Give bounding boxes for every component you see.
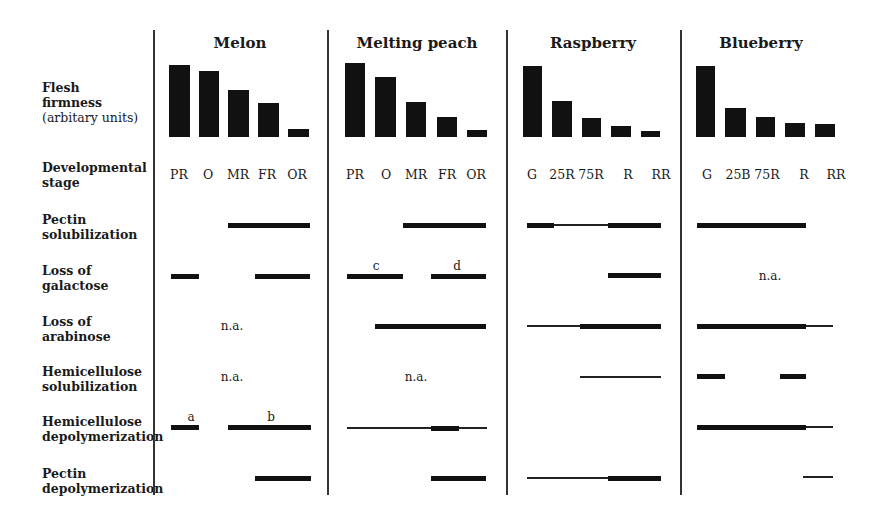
- activity-bar-strong: [527, 223, 554, 228]
- activity-bar-strong: [608, 273, 661, 278]
- not-available-label: n.a.: [212, 370, 252, 384]
- firmness-bar: [169, 65, 190, 137]
- row-label-text: Loss of: [42, 263, 108, 278]
- row-label-text: depolymerization: [42, 481, 163, 496]
- firmness-bar: [375, 77, 396, 137]
- column-divider: [153, 30, 155, 495]
- row-label-text: solubilization: [42, 227, 137, 242]
- activity-bar-strong: [608, 476, 661, 481]
- firmness-bar: [288, 129, 309, 137]
- column-divider: [680, 30, 682, 495]
- row-label-loss-of-arabinose: Loss of arabinose: [42, 314, 111, 344]
- row-label-text: Loss of: [42, 314, 111, 329]
- firmness-bar: [611, 126, 631, 137]
- activity-bar-strong: [431, 426, 459, 431]
- firmness-bar: [199, 71, 219, 137]
- not-available-label: n.a.: [396, 370, 436, 384]
- firmness-bar: [756, 117, 775, 137]
- footnote-c: c: [370, 259, 382, 273]
- firmness-bar: [725, 108, 746, 137]
- activity-bar-strong: [431, 274, 486, 279]
- row-label-text: firmness: [42, 95, 138, 110]
- stage-label: OR: [456, 167, 496, 182]
- row-label-text: depolymerization: [42, 429, 163, 444]
- column-title: Raspberry: [507, 34, 679, 52]
- footnote-b: b: [265, 410, 277, 424]
- activity-bar-strong: [697, 374, 725, 379]
- footnote-a: a: [185, 410, 197, 424]
- row-label-pectin-solubilization: Pectin solubilization: [42, 212, 137, 242]
- column-title: Melon: [154, 34, 326, 52]
- activity-bar-strong: [608, 223, 661, 228]
- activity-bar-strong: [697, 324, 806, 329]
- activity-bar-strong: [375, 324, 486, 329]
- firmness-bar: [552, 101, 572, 137]
- stage-label: 75R: [571, 167, 611, 182]
- activity-bar-strong: [580, 324, 661, 329]
- activity-bar-strong: [171, 425, 199, 430]
- activity-bar-weak: [347, 427, 487, 429]
- activity-bar-strong: [403, 223, 486, 228]
- row-label-text: stage: [42, 175, 147, 190]
- row-label-subtext: (arbitary units): [42, 110, 138, 125]
- activity-bar-strong: [347, 274, 403, 279]
- firmness-bar: [406, 102, 426, 137]
- column-title: Melting peach: [328, 34, 506, 52]
- row-label-loss-of-galactose: Loss of galactose: [42, 263, 108, 293]
- activity-bar-strong: [431, 476, 486, 481]
- activity-bar-strong: [255, 274, 310, 279]
- column-divider: [327, 30, 329, 495]
- row-label-text: Pectin: [42, 466, 163, 481]
- activity-bar-weak: [803, 476, 833, 478]
- activity-bar-strong: [228, 425, 311, 430]
- activity-bar-strong: [780, 374, 806, 379]
- row-label-text: galactose: [42, 278, 108, 293]
- column-title: Blueberry: [681, 34, 841, 52]
- firmness-bar: [641, 131, 660, 137]
- activity-bar-strong: [171, 274, 199, 279]
- row-label-hemicellulose-solubilization: Hemicellulose solubilization: [42, 364, 142, 394]
- firmness-bar: [696, 66, 715, 137]
- activity-bar-weak: [580, 376, 661, 378]
- firmness-bar: [467, 130, 487, 137]
- row-label-developmental-stage: Developmental stage: [42, 160, 147, 190]
- column-divider: [506, 30, 508, 495]
- firmness-bar: [228, 90, 249, 137]
- activity-bar-strong: [697, 425, 806, 430]
- activity-bar-strong: [697, 223, 806, 228]
- row-label-text: solubilization: [42, 379, 142, 394]
- row-label-text: Pectin: [42, 212, 137, 227]
- row-label-pectin-depolymerization: Pectin depolymerization: [42, 466, 163, 496]
- activity-bar-strong: [255, 476, 311, 481]
- firmness-bar: [815, 124, 835, 137]
- firmness-bar: [345, 63, 365, 137]
- row-label-hemicellulose-depolymerization: Hemicellulose depolymerization: [42, 414, 163, 444]
- row-label-text: Flesh: [42, 80, 138, 95]
- firmness-bar: [437, 117, 457, 137]
- firmness-bar: [785, 123, 805, 137]
- firmness-bar: [582, 118, 601, 137]
- not-available-label: n.a.: [750, 269, 790, 283]
- stage-label: RR: [641, 167, 681, 182]
- row-label-text: Hemicellulose: [42, 414, 163, 429]
- not-available-label: n.a.: [212, 319, 252, 333]
- stage-label: OR: [277, 167, 317, 182]
- stage-label: 75R: [747, 167, 787, 182]
- footnote-d: d: [451, 259, 463, 273]
- firmness-bar: [523, 66, 542, 137]
- stage-label: RR: [816, 167, 856, 182]
- row-label-text: Hemicellulose: [42, 364, 142, 379]
- row-label-text: Developmental: [42, 160, 147, 175]
- activity-bar-strong: [228, 223, 310, 228]
- firmness-bar: [258, 103, 279, 137]
- row-label-text: arabinose: [42, 329, 111, 344]
- row-label-flesh-firmness: Flesh firmness (arbitary units): [42, 80, 138, 125]
